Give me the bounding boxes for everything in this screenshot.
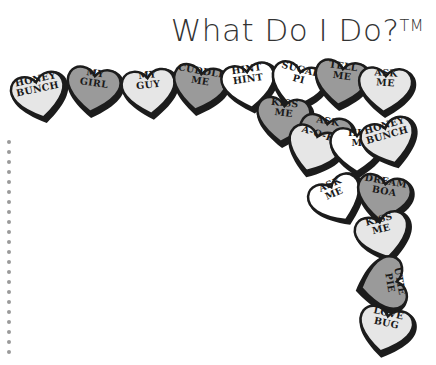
page-title: What Do I Do?TM bbox=[171, 12, 424, 48]
trademark-symbol: TM bbox=[399, 16, 424, 35]
dot-icon bbox=[7, 330, 11, 334]
dot-icon bbox=[7, 210, 11, 214]
dot-icon bbox=[7, 340, 11, 344]
dot-icon bbox=[7, 150, 11, 154]
dot-icon bbox=[7, 180, 11, 184]
dot-icon bbox=[7, 170, 11, 174]
dot-icon bbox=[7, 230, 11, 234]
dot-icon bbox=[7, 350, 11, 354]
title-text: What Do I Do? bbox=[171, 12, 400, 48]
heart-message: ASKME bbox=[354, 66, 417, 90]
dot-icon bbox=[7, 250, 11, 254]
dot-icon bbox=[7, 280, 11, 284]
dot-icon bbox=[7, 300, 11, 304]
dot-icon bbox=[7, 240, 11, 244]
dot-icon bbox=[7, 200, 11, 204]
dot-icon bbox=[7, 310, 11, 314]
dot-icon bbox=[7, 160, 11, 164]
dot-icon bbox=[7, 290, 11, 294]
candy-heart: LOVEBUG bbox=[349, 296, 421, 364]
dotted-margin-line bbox=[7, 140, 13, 360]
dot-icon bbox=[7, 270, 11, 274]
dot-icon bbox=[7, 140, 11, 144]
dot-icon bbox=[7, 320, 11, 324]
dot-icon bbox=[7, 190, 11, 194]
dot-icon bbox=[7, 220, 11, 224]
dot-icon bbox=[7, 260, 11, 264]
